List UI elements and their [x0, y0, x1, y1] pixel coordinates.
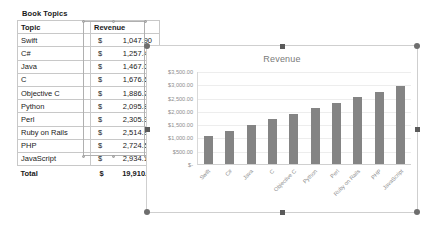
currency-symbol: $	[94, 154, 110, 163]
x-axis-tick-label: Perl	[328, 168, 339, 179]
x-axis-tick: Python	[310, 166, 319, 216]
x-axis-tick-label: Swift	[199, 168, 212, 181]
table-row[interactable]: Ruby on Rails$2,514.96	[18, 126, 160, 139]
currency-symbol: $	[94, 141, 110, 150]
currency-symbol: $	[94, 128, 110, 137]
bar[interactable]	[353, 97, 362, 164]
table-row[interactable]: C#$1,257.48	[18, 47, 160, 60]
bar[interactable]	[332, 103, 341, 164]
table-row[interactable]: Objective C$1,886.22	[18, 86, 160, 99]
x-axis-tick: Ruby on Rails	[353, 166, 362, 216]
cell-topic[interactable]: Swift	[18, 34, 91, 47]
x-axis-tick-label: Java	[242, 168, 255, 181]
cell-topic[interactable]: C	[18, 73, 91, 86]
x-axis[interactable]: SwiftC#JavaCObjective CPythonPerlRuby on…	[197, 166, 411, 216]
cell-topic[interactable]: Python	[18, 100, 91, 113]
currency-symbol: $	[94, 169, 110, 178]
currency-symbol: $	[94, 62, 110, 71]
y-axis-tick-label: $1,500.00	[168, 122, 193, 128]
table-row[interactable]: Perl$2,305.38	[18, 113, 160, 126]
plot-area[interactable]	[197, 72, 411, 165]
table-row[interactable]: C$1,676.64	[18, 73, 160, 86]
currency-symbol: $	[94, 102, 110, 111]
cell-topic[interactable]: Ruby on Rails	[18, 126, 91, 139]
chart-handle-bottom-left[interactable]	[144, 209, 150, 215]
bar[interactable]	[247, 125, 256, 164]
currency-symbol: $	[94, 115, 110, 124]
table-row[interactable]: Python$2,095.80	[18, 100, 160, 113]
x-axis-tick: PHP	[374, 166, 383, 216]
currency-symbol: $	[94, 49, 110, 58]
y-axis[interactable]: $3,500.00$3,000.00$2,500.00$2,000.00$1,5…	[151, 72, 195, 165]
cell-topic[interactable]: Objective C	[18, 86, 91, 99]
y-axis-tick-label: $-	[188, 162, 193, 168]
chart-plot-wrapper: $3,500.00$3,000.00$2,500.00$2,000.00$1,5…	[147, 72, 413, 212]
bar[interactable]	[289, 114, 298, 164]
table-body: Swift$1,047.90C#$1,257.48Java$1,467.06C$…	[18, 34, 160, 180]
cell-topic[interactable]: JavaScript	[18, 152, 91, 165]
chart-handle-top-right[interactable]	[414, 43, 420, 49]
x-axis-tick-label: PHP	[370, 168, 382, 180]
y-axis-tick-label: $500.00	[173, 149, 193, 155]
y-axis-tick-label: $3,500.00	[168, 69, 193, 75]
x-axis-tick: Swift	[203, 166, 212, 216]
y-axis-tick-label: $1,000.00	[168, 135, 193, 141]
y-axis-tick-label: $2,500.00	[168, 96, 193, 102]
x-axis-tick: Java	[246, 166, 255, 216]
currency-symbol: $	[94, 36, 110, 45]
x-axis-tick: Objective C	[289, 166, 298, 216]
x-axis-tick-label: JavaScript	[381, 168, 404, 191]
x-axis-tick: JavaScript	[396, 166, 405, 216]
cell-topic[interactable]: PHP	[18, 139, 91, 152]
table-header-row: Topic Revenue	[18, 21, 160, 34]
cell-topic[interactable]: C#	[18, 47, 91, 60]
x-axis-tick-label: C	[268, 168, 275, 175]
table-row[interactable]: Swift$1,047.90	[18, 34, 160, 47]
cell-topic[interactable]: Perl	[18, 113, 91, 126]
bar[interactable]	[268, 119, 277, 164]
bar-series[interactable]	[198, 72, 411, 164]
chart-handle-bottom-right[interactable]	[414, 209, 420, 215]
currency-symbol: $	[94, 75, 110, 84]
x-axis-tick: C#	[225, 166, 234, 216]
chart-handle-middle-left[interactable]	[145, 127, 150, 132]
cell-total-label[interactable]: Total	[18, 166, 91, 181]
column-header-topic[interactable]: Topic	[18, 21, 91, 34]
bar[interactable]	[225, 131, 234, 164]
table-row[interactable]: Java$1,467.06	[18, 60, 160, 73]
x-axis-tick-label: C#	[224, 168, 233, 177]
table-row[interactable]: PHP$2,724.54	[18, 139, 160, 152]
data-table-region: Book Topics Topic Revenue Swift$1,047.90…	[17, 8, 145, 180]
bar[interactable]	[311, 108, 320, 164]
y-axis-tick-label: $2,000.00	[168, 109, 193, 115]
spreadsheet-screen: Book Topics Topic Revenue Swift$1,047.90…	[0, 0, 444, 227]
chart-object[interactable]: Revenue $3,500.00$3,000.00$2,500.00$2,00…	[146, 45, 418, 213]
chart-handle-top-left[interactable]	[144, 43, 150, 49]
table-row[interactable]: JavaScript$2,934.12	[18, 152, 160, 165]
bar[interactable]	[204, 136, 213, 164]
currency-symbol: $	[94, 89, 110, 98]
bar[interactable]	[375, 92, 384, 164]
bar[interactable]	[396, 86, 405, 164]
x-axis-tick-label: Python	[302, 168, 319, 185]
y-axis-tick-label: $3,000.00	[168, 82, 193, 88]
chart-handle-middle-right[interactable]	[415, 127, 420, 132]
column-header-revenue[interactable]: Revenue	[91, 21, 160, 34]
chart-title[interactable]: Revenue	[147, 46, 417, 64]
chart-handle-bottom-middle[interactable]	[280, 210, 285, 215]
table-total-row[interactable]: Total$19,910.10	[18, 166, 160, 181]
revenue-table: Topic Revenue Swift$1,047.90C#$1,257.48J…	[17, 20, 160, 180]
table-title: Book Topics	[17, 8, 145, 20]
cell-topic[interactable]: Java	[18, 60, 91, 73]
chart-handle-top-middle[interactable]	[280, 44, 285, 49]
